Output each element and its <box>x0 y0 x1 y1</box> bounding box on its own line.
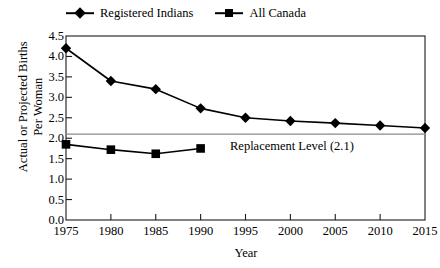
y-axis-tick-label: 1.5 <box>34 151 64 166</box>
x-axis-tick-label: 1980 <box>88 224 134 239</box>
x-axis-tick-label: 2005 <box>312 224 358 239</box>
data-point-square <box>151 149 160 158</box>
square-marker-icon <box>215 7 243 19</box>
y-axis-tick-label: 2.0 <box>34 131 64 146</box>
x-axis-tick-label: 2015 <box>402 224 440 239</box>
legend-item-registered-indians: Registered Indians <box>66 7 193 20</box>
legend-label-all-canada: All Canada <box>249 7 306 20</box>
y-axis-tick-label: 0.5 <box>34 192 64 207</box>
x-axis-title: Year <box>66 246 426 261</box>
x-axis-tick-label: 1995 <box>223 224 269 239</box>
data-point-square <box>196 144 205 153</box>
data-point-square <box>107 145 116 154</box>
y-axis-title-line1: Actual or Projected Births <box>16 41 30 172</box>
y-axis-tick-label: 3.0 <box>34 90 64 105</box>
y-axis-tick-label: 4.5 <box>34 29 64 44</box>
chart-legend: Registered Indians All Canada <box>66 2 366 24</box>
fertility-rate-chart: Registered Indians All Canada Actual or … <box>0 0 440 268</box>
y-axis-tick-label: 2.5 <box>34 110 64 125</box>
y-axis-tick-label: 3.5 <box>34 69 64 84</box>
x-axis-tick-label: 2000 <box>267 224 313 239</box>
legend-label-registered-indians: Registered Indians <box>100 7 193 20</box>
y-axis-tick-label: 1.0 <box>34 172 64 187</box>
x-axis-tick-label: 1975 <box>43 224 89 239</box>
x-axis-tick-label: 2010 <box>357 224 403 239</box>
legend-item-all-canada: All Canada <box>215 7 306 20</box>
y-axis-tick-label: 4.0 <box>34 49 64 64</box>
diamond-marker-icon <box>66 7 94 19</box>
replacement-level-annotation: Replacement Level (2.1) <box>230 139 354 154</box>
x-axis-tick-label: 1990 <box>178 224 224 239</box>
x-axis-tick-label: 1985 <box>133 224 179 239</box>
plot-frame <box>66 36 425 220</box>
